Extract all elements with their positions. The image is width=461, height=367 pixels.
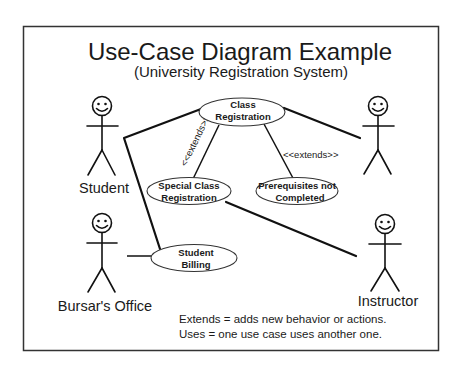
use-case-label-line2: Billing <box>181 259 210 270</box>
legend-extends: Extends = adds new behavior or actions. <box>179 313 386 325</box>
actor-label: Instructor <box>358 293 419 309</box>
diagram-title: Use-Case Diagram Example <box>88 38 392 65</box>
use-case-label-line1: Student <box>178 247 214 258</box>
legend-uses: Uses = one use case uses another one. <box>179 328 382 340</box>
actor-label: Student <box>79 180 129 196</box>
use-case-diagram: Use-Case Diagram Example (University Reg… <box>0 0 461 367</box>
use-case-label-line1: Class <box>230 99 255 110</box>
use-case-label-line2: Registration <box>215 111 271 122</box>
use-case-class-registration: Class Registration <box>199 98 285 126</box>
use-case-special-class-registration: Special Class Registration <box>147 178 231 205</box>
use-case-label-line1: Prerequisites not <box>258 180 336 191</box>
extends-label-prereq: <<extends>> <box>283 149 339 160</box>
diagram-subtitle: (University Registration System) <box>134 63 348 80</box>
use-case-label-line2: Registration <box>161 192 217 203</box>
use-case-label-line1: Special Class <box>158 180 219 191</box>
use-case-student-billing: Student Billing <box>151 245 237 272</box>
use-case-prerequisites-not-completed: Prerequisites not Completed <box>256 178 338 205</box>
actor-label: Bursar's Office <box>58 298 152 314</box>
use-case-label-line2: Completed <box>275 192 324 203</box>
